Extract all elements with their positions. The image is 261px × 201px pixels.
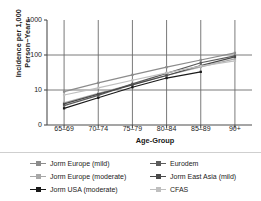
y-tick-label-1000: 1000 <box>12 16 42 23</box>
legend-marker-icon <box>30 184 46 195</box>
legend-item-label: CFAS <box>170 184 188 195</box>
y-tick-label-100: 100 <box>12 51 42 58</box>
series-point-5-0 <box>63 94 65 96</box>
x-tick-label-5: 90+ <box>215 125 255 132</box>
series-point-4-1 <box>97 93 99 95</box>
legend-marker-icon <box>150 171 166 182</box>
series-point-4-0 <box>63 103 65 105</box>
y-tick-label-10: 10 <box>12 86 42 93</box>
series-point-2-2 <box>131 86 133 88</box>
series-point-2-4 <box>200 71 202 73</box>
series-point-5-3 <box>165 72 167 74</box>
series-point-0-3 <box>165 66 167 68</box>
series-point-5-4 <box>200 65 202 67</box>
legend-marker-icon <box>150 158 166 169</box>
legend-item-4[interactable]: Jorm East Asia (mild) <box>150 170 260 183</box>
series-point-5-2 <box>131 79 133 81</box>
series-point-0-5 <box>234 52 236 54</box>
legend-marker-icon <box>30 158 46 169</box>
legend-column-right: EurodemJorm East Asia (mild)CFAS <box>150 157 260 196</box>
legend-item-5[interactable]: CFAS <box>150 183 260 196</box>
series-point-0-2 <box>131 74 133 76</box>
legend-item-1[interactable]: Jorm Europe (moderate) <box>30 170 145 183</box>
legend-item-label: Eurodem <box>170 158 198 169</box>
series-point-2-0 <box>63 107 65 109</box>
series-point-0-0 <box>63 90 65 92</box>
incidence-line-chart: Incidence per 1,000 Person−Years 1000100… <box>0 0 261 201</box>
series-point-0-1 <box>97 82 99 84</box>
series-point-4-3 <box>165 74 167 76</box>
series-point-2-3 <box>165 77 167 79</box>
x-axis-title: Age-Group <box>55 136 255 145</box>
legend-item-label: Jorm Europe (mild) <box>50 158 110 169</box>
series-point-2-1 <box>97 97 99 99</box>
y-axis-tick-labels: 1000100100 <box>10 0 42 130</box>
chart-legend: Jorm Europe (mild)Jorm Europe (moderate)… <box>0 152 261 201</box>
legend-item-label: Jorm USA (moderate) <box>50 184 118 195</box>
series-point-5-1 <box>97 87 99 89</box>
y-tick-label-0: 0 <box>12 121 42 128</box>
series-point-0-4 <box>200 59 202 61</box>
series-point-3-4 <box>200 62 202 64</box>
legend-item-3[interactable]: Eurodem <box>150 157 260 170</box>
legend-item-0[interactable]: Jorm Europe (mild) <box>30 157 145 170</box>
series-line-0 <box>64 53 235 92</box>
series-point-4-2 <box>131 84 133 86</box>
legend-item-label: Jorm Europe (moderate) <box>50 171 126 182</box>
legend-item-label: Jorm East Asia (mild) <box>170 171 236 182</box>
series-point-5-5 <box>234 60 236 62</box>
legend-marker-icon <box>30 171 46 182</box>
series-line-4 <box>64 57 235 104</box>
legend-marker-icon <box>150 184 166 195</box>
legend-column-left: Jorm Europe (mild)Jorm Europe (moderate)… <box>30 157 145 196</box>
series-point-4-5 <box>234 56 236 58</box>
legend-item-2[interactable]: Jorm USA (moderate) <box>30 183 145 196</box>
